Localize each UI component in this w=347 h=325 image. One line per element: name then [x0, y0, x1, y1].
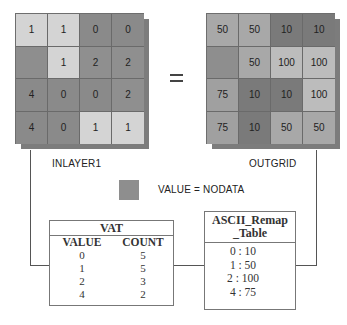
vat-cell-value: 4	[50, 288, 114, 301]
outgrid-cell	[207, 47, 239, 80]
inlayer-cell: 1	[48, 14, 80, 47]
remap-title-line2: _Table	[205, 227, 295, 240]
vat-cell-count: 5	[114, 262, 172, 275]
outgrid-cell: 100	[271, 47, 303, 80]
remap-rows: 0 : 10 1 : 50 2 : 100 4 : 75	[205, 243, 295, 299]
vat-col-value: VALUE	[50, 236, 114, 249]
inlayer-cell: 0	[80, 79, 112, 112]
outgrid-cell: 100	[303, 79, 335, 112]
outgrid-cell: 75	[207, 112, 239, 145]
remap-row: 0 : 10	[191, 245, 295, 259]
inlayer-cell: 2	[112, 79, 144, 112]
connector-left-horizontal	[30, 265, 50, 266]
inlayer-cell: 0	[80, 14, 112, 47]
vat-col-count: COUNT	[114, 236, 172, 249]
remap-row: 1 : 50	[191, 259, 295, 273]
outgrid-cell: 50	[303, 112, 335, 145]
equals-sign-bottom	[170, 80, 183, 82]
vat-table: VAT VALUE COUNT 05 15 23 42	[49, 220, 174, 306]
inlayer-cell: 0	[48, 79, 80, 112]
nodata-legend-label: VALUE = NODATA	[158, 184, 244, 195]
vat-cell-value: 2	[50, 275, 114, 288]
inlayer-cell: 1	[16, 14, 48, 47]
vat-title: VAT	[50, 221, 173, 236]
outgrid-label: OUTGRID	[249, 158, 297, 169]
vat-cell-value: 0	[50, 249, 114, 262]
nodata-swatch	[119, 180, 139, 200]
inlayer-cell: 1	[112, 112, 144, 145]
equals-sign-top	[170, 74, 183, 76]
inlayer-cell	[16, 47, 48, 80]
vat-row: 42	[50, 288, 173, 301]
outgrid-cell: 50	[207, 14, 239, 47]
vat-cell-value: 1	[50, 262, 114, 275]
vat-header-row: VALUE COUNT	[50, 236, 173, 249]
connector-right-horizontal	[295, 265, 317, 266]
outgrid-cell: 10	[239, 112, 271, 145]
outgrid-cell: 100	[303, 47, 335, 80]
inlayer-grid: 110012240024011	[15, 13, 144, 144]
outgrid-cell: 10	[271, 14, 303, 47]
connector-left-vertical	[30, 150, 31, 266]
outgrid-cell: 10	[239, 79, 271, 112]
outgrid-grid: 505010105010010075101010075105050	[206, 13, 335, 144]
vat-cell-count: 5	[114, 249, 172, 262]
vat-cell-count: 3	[114, 275, 172, 288]
inlayer-label: INLAYER1	[52, 158, 101, 169]
connector-right-vertical	[316, 150, 317, 266]
outgrid-cell: 50	[239, 47, 271, 80]
vat-row: 15	[50, 262, 173, 275]
vat-cell-count: 2	[114, 288, 172, 301]
inlayer-cell: 1	[80, 112, 112, 145]
inlayer-cell: 4	[16, 112, 48, 145]
outgrid-cell: 10	[271, 79, 303, 112]
outgrid-cell: 10	[303, 14, 335, 47]
inlayer-cell: 2	[80, 47, 112, 80]
remap-title: ASCII_Remap _Table	[205, 212, 295, 243]
outgrid-cell: 75	[207, 79, 239, 112]
vat-row: 05	[50, 249, 173, 262]
inlayer-cell: 1	[48, 47, 80, 80]
inlayer-cell: 0	[112, 14, 144, 47]
inlayer-cell: 4	[16, 79, 48, 112]
outgrid-cell: 50	[239, 14, 271, 47]
ascii-remap-table: ASCII_Remap _Table 0 : 10 1 : 50 2 : 100…	[204, 211, 296, 310]
vat-row: 23	[50, 275, 173, 288]
inlayer-cell: 2	[112, 47, 144, 80]
inlayer-cell: 0	[48, 112, 80, 145]
outgrid-cell: 50	[271, 112, 303, 145]
remap-row: 2 : 100	[191, 272, 295, 286]
remap-row: 4 : 75	[191, 286, 295, 300]
